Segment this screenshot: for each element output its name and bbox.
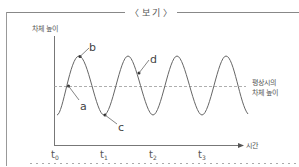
point-d-leader xyxy=(139,60,149,73)
point-a-label: a xyxy=(80,100,87,113)
tick-t0: t0 xyxy=(51,149,59,161)
point-a-leader xyxy=(69,86,80,100)
point-d-label: d xyxy=(150,53,157,66)
diagram-box: 〈 보 기 〉 차체 높이 시간 평상시의 차체 높이 a b c d t0 xyxy=(0,0,299,167)
tick-t2: t2 xyxy=(149,149,157,161)
svg-text:t2: t2 xyxy=(149,149,157,161)
point-c-label: c xyxy=(118,121,124,134)
tick-t3: t3 xyxy=(198,149,206,161)
oscillation-diagram: 〈 보 기 〉 차체 높이 시간 평상시의 차체 높이 a b c d t0 xyxy=(0,0,299,167)
svg-text:t3: t3 xyxy=(198,149,206,161)
svg-text:t1: t1 xyxy=(100,149,108,161)
x-axis-arrow-icon xyxy=(238,143,244,148)
point-b-leader xyxy=(80,48,89,57)
reference-label-line2: 차체 높이 xyxy=(252,88,278,97)
reference-label-line1: 평상시의 xyxy=(252,78,276,87)
box-title: 〈 보 기 〉 xyxy=(130,8,173,18)
y-axis-label: 차체 높이 xyxy=(32,24,58,33)
x-axis-label: 시간 xyxy=(246,141,259,150)
svg-text:t0: t0 xyxy=(51,149,59,161)
point-b-label: b xyxy=(89,41,96,54)
tick-t1: t1 xyxy=(100,149,108,161)
point-c-leader xyxy=(105,115,117,124)
